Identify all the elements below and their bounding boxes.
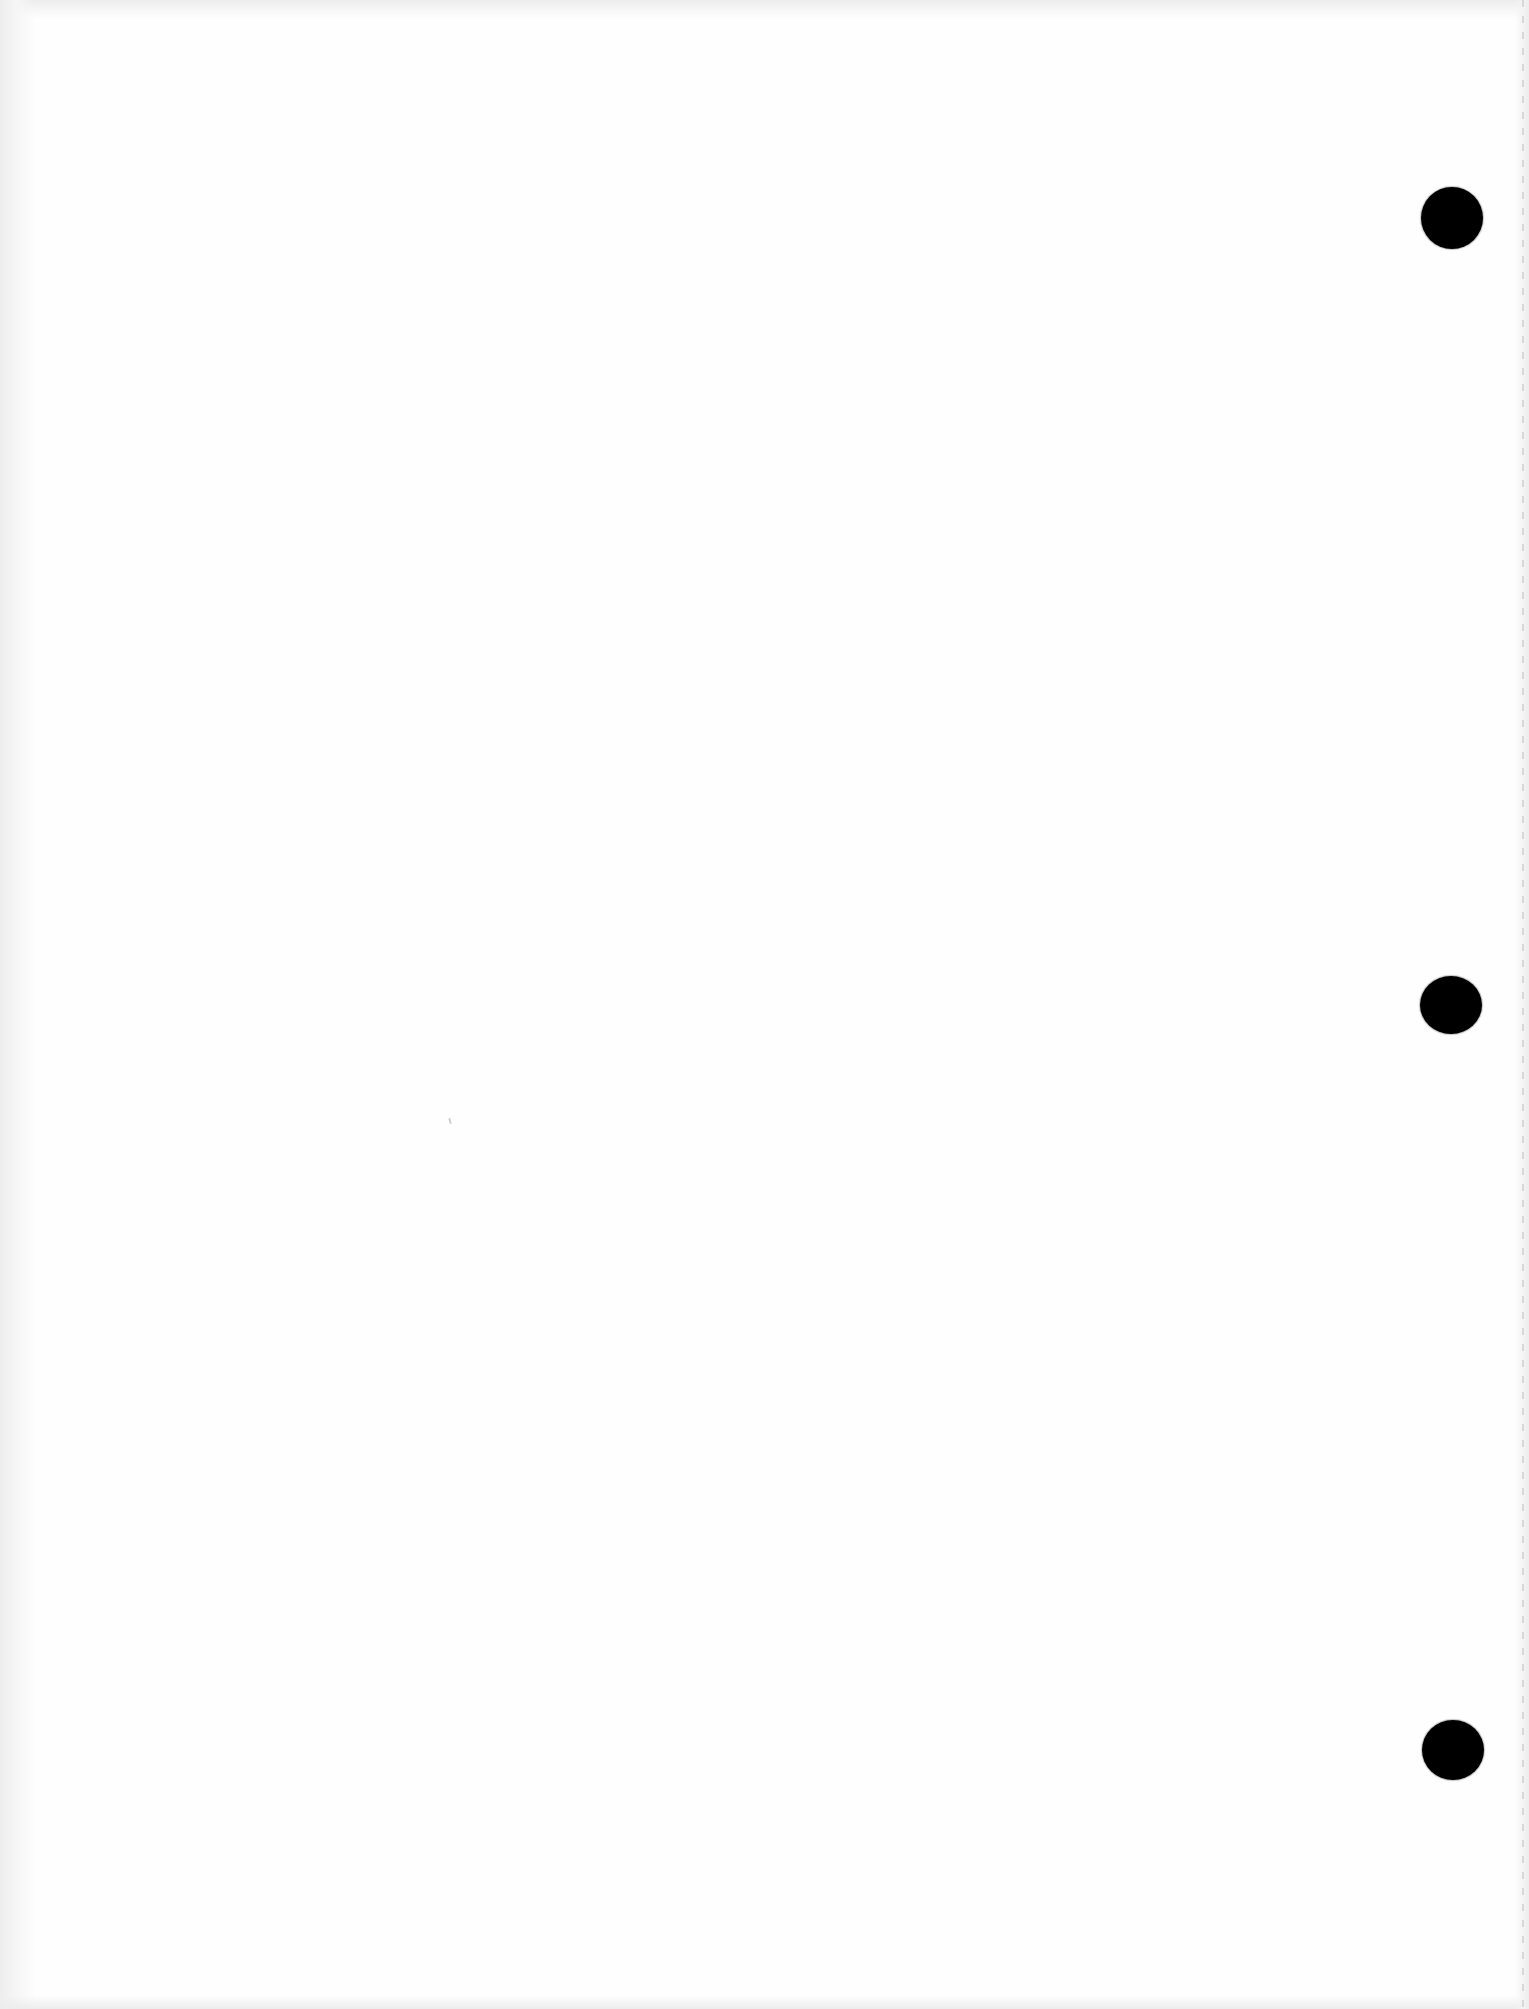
scan-shadow-top	[0, 0, 1529, 18]
perforated-edge	[1515, 0, 1529, 2009]
hole-bottom-icon	[1422, 1720, 1484, 1780]
scan-shadow-left	[0, 0, 36, 2009]
speck	[448, 1118, 451, 1124]
scan-shadow-bottom	[0, 1995, 1529, 2009]
blank-paper-sheet	[0, 0, 1529, 2009]
perforation-line	[1522, 0, 1524, 2009]
hole-middle-icon	[1420, 976, 1482, 1034]
hole-top-icon	[1421, 187, 1483, 249]
